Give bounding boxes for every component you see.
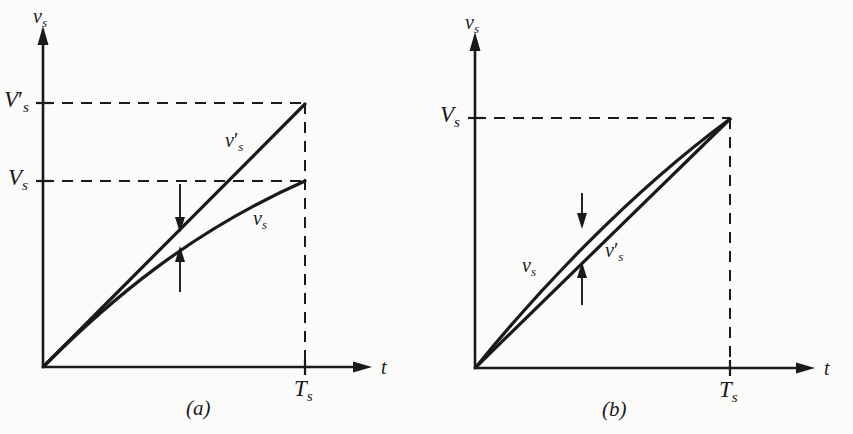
panel-a-x-axis-label: t <box>381 357 387 377</box>
panel-b-curve-label-vs: vs <box>522 255 536 275</box>
panel-b-y-axis-label: vs <box>465 12 479 32</box>
panel-a-curve-label-vs-prime: v′s <box>225 130 243 150</box>
panel-b-curve-vs-prime <box>476 119 730 367</box>
panel-b-xtick-label-ts: Ts <box>719 378 738 401</box>
panel-b-gap-arrow-up-head <box>577 262 587 278</box>
panel-b-x-axis-label: t <box>824 358 830 378</box>
panel-b-gap-arrow-down-head <box>577 213 587 229</box>
panel-a-y-axis-label: vs <box>33 6 47 26</box>
panel-a-ytick-label-vs-prime: V′s <box>4 88 29 111</box>
panel-a-xtick-label-ts: Ts <box>294 377 313 400</box>
panel-b-ytick-label-vs: Vs <box>440 103 460 126</box>
panel-b-plot <box>427 0 853 434</box>
panel-a-ytick-label-vs: Vs <box>8 166 28 189</box>
panel-b-x-axis-arrowhead <box>796 363 815 374</box>
panel-a-plot <box>0 0 427 434</box>
panel-b-caption: (b) <box>602 399 627 420</box>
figure-two-panel-plots: vs t V′s Vs Ts v′s vs (a) <box>0 0 853 434</box>
panel-b-curve-label-vs-prime: v′s <box>605 240 623 260</box>
panel-a-x-axis-arrowhead <box>353 362 372 373</box>
panel-a-curve-label-vs: vs <box>253 208 267 228</box>
panel-a-gap-annotation <box>175 184 185 292</box>
panel-a-caption: (a) <box>186 398 211 419</box>
panel-a: vs t V′s Vs Ts v′s vs (a) <box>0 0 427 434</box>
panel-b: vs t Vs Ts vs v′s (b) <box>427 0 853 434</box>
